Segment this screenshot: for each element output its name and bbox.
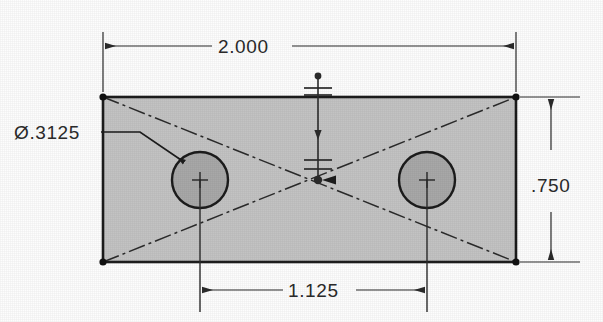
dimension-label-overall-width: 2.000 — [218, 36, 269, 57]
vertex-top-left — [99, 93, 106, 100]
center-datum-origin — [314, 176, 322, 184]
drawing-svg: 2.000 .750 1.125 Ø.3125 — [0, 0, 603, 322]
dimension-label-overall-height: .750 — [531, 175, 570, 196]
technical-drawing-canvas: 2.000 .750 1.125 Ø.3125 — [0, 0, 603, 322]
dimension-label-hole-spacing: 1.125 — [288, 280, 339, 301]
vertex-bottom-right — [512, 258, 519, 265]
dimension-overall-width: 2.000 — [103, 32, 516, 92]
vertex-top-right — [512, 93, 519, 100]
vertex-bottom-left — [99, 258, 106, 265]
dimension-overall-height: .750 — [520, 97, 580, 262]
callout-label-hole-diameter: Ø.3125 — [14, 122, 80, 143]
